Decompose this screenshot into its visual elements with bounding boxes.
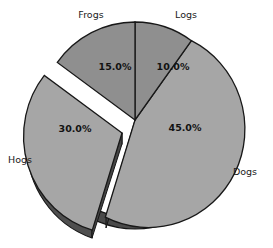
pie-top-layer	[24, 22, 245, 230]
slice-percent-frogs: 15.0%	[99, 61, 132, 72]
slice-percent-hogs: 30.0%	[59, 123, 92, 134]
category-label-logs: Logs	[175, 9, 197, 20]
slice-percent-dogs: 45.0%	[169, 122, 202, 133]
category-label-hogs: Hogs	[8, 154, 32, 165]
pie-chart-canvas: 10.0% 45.0% 30.0% 15.0% Logs Dogs Hogs F…	[0, 0, 273, 248]
category-label-dogs: Dogs	[233, 166, 257, 177]
slice-percent-logs: 10.0%	[157, 61, 190, 72]
category-label-frogs: Frogs	[78, 9, 103, 20]
pie-chart-figure: 10.0% 45.0% 30.0% 15.0% Logs Dogs Hogs F…	[0, 0, 273, 248]
